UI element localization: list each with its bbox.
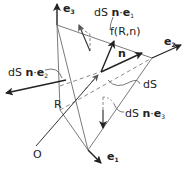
edge-right-bottom	[88, 58, 152, 150]
position-vector-r	[36, 76, 97, 146]
label-e2: e2	[164, 35, 176, 48]
label-e3: e3	[63, 2, 75, 15]
axis-e1-arrow	[88, 150, 101, 163]
label-face-e1: dS n·e1	[94, 6, 134, 19]
face-normal-minus-e2	[6, 80, 66, 93]
face-normal-minus-e1	[79, 25, 90, 51]
label-origin: O	[33, 148, 42, 161]
tetrahedron-diagram: e3 e2 e1 dS n·e1 f(R,n) n dS n·e2 dS R d…	[0, 0, 184, 169]
label-face-e2: dS n·e2	[8, 66, 48, 79]
label-e1: e1	[107, 150, 119, 163]
tetrahedron	[57, 25, 152, 150]
diagram-svg: e3 e2 e1 dS n·e1 f(R,n) n dS n·e2 dS R d…	[0, 0, 184, 169]
label-face-e3: dS n·e3	[125, 107, 165, 120]
label-normal: n	[118, 47, 126, 60]
edge-axis-e1	[60, 110, 88, 150]
label-position: R	[54, 98, 62, 111]
edge-top-bottom	[57, 25, 88, 150]
label-traction: f(R,n)	[110, 25, 141, 38]
right-angle-e3	[103, 97, 114, 104]
label-area: dS	[143, 78, 157, 91]
